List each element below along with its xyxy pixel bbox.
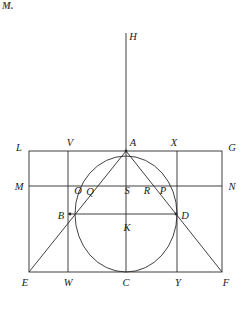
- line-AE: [29, 151, 126, 272]
- point-label-G: G: [228, 143, 236, 154]
- point-label-Y: Y: [175, 278, 181, 289]
- point-label-K: K: [123, 223, 130, 234]
- point-label-H: H: [129, 32, 137, 43]
- point-label-F: F: [223, 278, 229, 289]
- point-label-L: L: [16, 143, 22, 154]
- point-B: [69, 213, 72, 216]
- point-label-X: X: [171, 138, 177, 149]
- point-label-Q: Q: [86, 187, 94, 198]
- line-AF: [126, 151, 222, 272]
- point-A: [125, 150, 128, 153]
- point-label-V: V: [67, 138, 73, 149]
- point-label-A: A: [130, 138, 136, 149]
- point-label-E: E: [22, 278, 28, 289]
- point-label-O: O: [74, 186, 82, 197]
- point-label-D: D: [181, 211, 189, 222]
- point-label-S: S: [124, 186, 129, 197]
- point-D: [175, 213, 178, 216]
- point-label-M: M: [15, 182, 24, 193]
- geometry-figure: [0, 0, 251, 312]
- point-label-R: R: [144, 186, 150, 197]
- point-label-C: C: [122, 278, 129, 289]
- point-label-W: W: [64, 278, 73, 289]
- point-label-B: B: [58, 211, 64, 222]
- point-label-P: P: [160, 186, 166, 197]
- point-label-N: N: [228, 182, 235, 193]
